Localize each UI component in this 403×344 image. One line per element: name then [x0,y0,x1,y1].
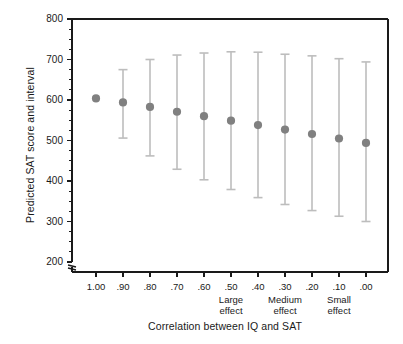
plot-area [0,0,403,344]
y-axis-tick-label: 300 [29,217,63,227]
data-point-marker [308,130,316,138]
effect-annotation-line2: effect [258,305,312,316]
data-point-marker [335,134,343,142]
effect-size-annotation: Mediumeffect [258,294,312,316]
effect-annotation-line1: Small [312,294,366,305]
y-axis-tick-label: 700 [29,55,63,65]
data-point-marker [227,117,235,125]
y-axis-tick-label: 400 [29,176,63,186]
data-point-marker [254,121,262,129]
effect-annotation-line2: effect [204,305,258,316]
y-axis-tick-label: 200 [29,257,63,267]
effect-annotation-line2: effect [312,305,366,316]
effect-size-annotation: Largeeffect [204,294,258,316]
y-axis-tick-label: 600 [29,95,63,105]
effect-size-annotation: Smalleffect [312,294,366,316]
data-point-marker [281,125,289,133]
y-axis-tick-label: 500 [29,136,63,146]
effect-annotation-line1: Medium [258,294,312,305]
data-point-marker [362,139,370,147]
effect-annotation-line1: Large [204,294,258,305]
data-point-marker [200,112,208,120]
y-axis-tick-label: 800 [29,14,63,24]
data-point-marker [119,98,127,106]
data-point-marker [92,94,100,102]
x-axis-tick-label: .00 [346,281,386,292]
data-point-marker [173,108,181,116]
data-point-marker [146,103,154,111]
chart-figure: Predicted SAT score and interval Correla… [0,0,403,344]
